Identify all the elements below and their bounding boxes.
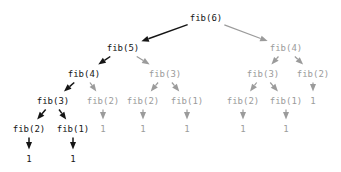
tree-edge-line (42, 110, 46, 114)
tree-edge-line (59, 110, 62, 114)
tree-edge (141, 25, 187, 42)
tree-edge-line (270, 83, 273, 86)
tree-edge (271, 57, 278, 65)
tree-edge (26, 138, 32, 150)
tree-edge-line (224, 25, 260, 39)
tree-edge-line (295, 57, 298, 60)
tree-edge (90, 83, 97, 92)
tree-edge (98, 57, 110, 65)
tree-edge-line (255, 83, 257, 86)
tree-edge (137, 57, 150, 65)
tree-node-1: 1 (283, 124, 288, 134)
tree-edge (184, 110, 190, 120)
tree-edge-arrowhead (26, 142, 32, 150)
tree-edge-line (104, 57, 110, 61)
tree-edge-arrowhead (59, 112, 66, 120)
tree-edge (224, 25, 267, 41)
tree-edge (310, 83, 316, 92)
tree-node-1: 1 (70, 154, 75, 164)
tree-edge (270, 83, 278, 92)
tree-edge-arrowhead (260, 36, 268, 42)
tree-edge-line (155, 83, 158, 86)
tree-edge-arrowhead (100, 112, 106, 120)
tree-node-fib3: fib(3) (247, 69, 280, 79)
tree-node-fib2: fib(2) (227, 96, 260, 106)
tree-edge (172, 83, 179, 92)
tree-edge-arrowhead (184, 112, 190, 120)
tree-node-1: 1 (310, 96, 315, 106)
tree-edge-arrowhead (98, 58, 106, 65)
tree-node-fib2: fib(2) (87, 96, 120, 106)
tree-node-1: 1 (100, 124, 105, 134)
tree-edge (240, 110, 246, 120)
tree-edge (250, 83, 257, 92)
tree-edge-arrowhead (142, 58, 150, 65)
tree-edge-arrowhead (141, 36, 149, 42)
tree-edge-arrowhead (90, 84, 97, 92)
tree-edge-arrowhead (240, 112, 246, 120)
tree-node-1: 1 (184, 124, 189, 134)
tree-edge-arrowhead (283, 112, 289, 120)
tree-node-fib2: fib(2) (127, 96, 160, 106)
tree-node-fib3: fib(3) (149, 69, 182, 79)
tree-edge (295, 57, 303, 65)
tree-edge-line (70, 83, 75, 87)
tree-node-1: 1 (26, 154, 31, 164)
tree-node-fib1: fib(1) (171, 96, 204, 106)
tree-node-fib2: fib(2) (13, 124, 46, 134)
tree-edge (59, 110, 66, 120)
tree-edge (140, 110, 146, 120)
tree-edge (100, 110, 106, 120)
tree-node-fib1: fib(1) (270, 96, 303, 106)
tree-node-1: 1 (140, 124, 145, 134)
tree-node-fib3: fib(3) (37, 96, 70, 106)
tree-node-fib4: fib(4) (270, 43, 303, 53)
tree-node-1: 1 (240, 124, 245, 134)
tree-edge (70, 138, 76, 150)
tree-node-fib4: fib(4) (68, 69, 101, 79)
tree-edge-arrowhead (310, 84, 316, 92)
tree-node-fib6: fib(6) (190, 13, 223, 23)
fib-recursion-tree-figure: fib(6)fib(5)fib(4)fib(4)fib(3)fib(3)fib(… (0, 0, 341, 172)
tree-edge (64, 83, 74, 92)
tree-edge (37, 110, 46, 120)
tree-node-fib5: fib(5) (107, 43, 140, 53)
tree-edge-line (90, 83, 92, 86)
tree-edges-svg (0, 0, 341, 172)
tree-node-fib1: fib(1) (57, 124, 90, 134)
tree-edge-arrowhead (140, 112, 146, 120)
tree-edge-line (148, 25, 187, 39)
tree-edge-arrowhead (70, 142, 76, 150)
tree-edge-line (137, 57, 144, 61)
tree-edge-arrowhead (250, 84, 257, 92)
tree-edge (151, 83, 158, 92)
tree-edge-line (276, 57, 278, 59)
tree-node-fib2: fib(2) (297, 69, 330, 79)
tree-edge-line (172, 83, 175, 86)
tree-edge (283, 110, 289, 120)
